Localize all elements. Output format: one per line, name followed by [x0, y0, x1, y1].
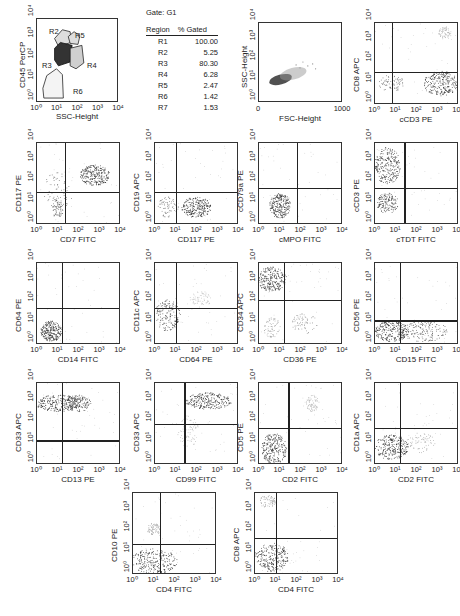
x-tick: 10²: [295, 345, 306, 354]
scatter-points: [37, 263, 119, 343]
scatter-panel-p11: [154, 382, 238, 464]
x-tick: 10⁰: [252, 225, 263, 234]
y-axis-label: CD11c APC: [132, 290, 141, 332]
y-tick: 10⁴: [122, 479, 131, 491]
x-tick: 10²: [295, 225, 306, 234]
x-axis-label: CD14 FITC: [28, 355, 128, 364]
y-tick: 10²: [122, 521, 131, 532]
y-tick: 10²: [364, 51, 373, 62]
y-axis-label: CD117 PE: [14, 175, 23, 212]
x-tick: 10⁰: [252, 465, 263, 474]
quadrant-line-vertical: [184, 383, 185, 463]
y-tick: 10¹: [244, 541, 253, 552]
quadrant-line-vertical: [392, 23, 393, 103]
x-axis-label: CD2 FITC: [366, 475, 460, 484]
pct-cell: 6.28: [176, 69, 218, 80]
region-cell: R7: [146, 102, 176, 113]
fsc-xlabel: FSC-Height: [250, 114, 350, 123]
x-tick: 10⁴: [336, 465, 348, 474]
scatter-points: [259, 383, 341, 463]
y-tick: 10⁰: [144, 211, 153, 222]
scatter-points: [375, 263, 457, 343]
y-tick: 10⁰: [364, 451, 373, 462]
quadrant-line-vertical: [62, 263, 63, 343]
x-tick: 10¹: [390, 345, 401, 354]
y-tick: 10²: [364, 171, 373, 182]
x-tick: 10⁰: [248, 575, 259, 584]
y-axis-ticks: 10⁰10¹10²10³10⁴: [248, 382, 260, 464]
x-tick: 10³: [432, 105, 443, 114]
pct-cell: 100.00: [176, 36, 218, 47]
scatter-points: [155, 263, 237, 343]
region-label-r6: R6: [73, 87, 83, 96]
y-tick: 10³: [144, 270, 153, 281]
quadrant-line-vertical: [400, 383, 401, 463]
table-row: R46.28: [146, 69, 218, 80]
x-tick: 10⁰: [368, 105, 379, 114]
y-axis-ticks: 10⁰10¹10²10³10⁴: [144, 382, 156, 464]
x-axis-label: CD2 FITC: [250, 475, 350, 484]
y-axis-label: cCD3 PE: [352, 179, 361, 212]
y-axis-label: CD8 APC: [352, 58, 361, 92]
y-tick: 10²: [248, 411, 257, 422]
x-tick: 10²: [73, 465, 84, 474]
y-tick: 10²: [26, 291, 35, 302]
x-tick: 10³: [94, 465, 105, 474]
scatter-points: [375, 383, 457, 463]
quadrant-line-vertical: [276, 493, 277, 573]
y-tick: 10⁰: [364, 331, 373, 342]
x-tick: 10²: [73, 225, 84, 234]
x-tick: 10⁰: [126, 575, 137, 584]
x-tick: 10²: [411, 345, 422, 354]
quadrant-line-vertical: [288, 383, 289, 463]
y-tick: 10⁰: [26, 331, 35, 342]
x-tick: 10¹: [390, 225, 401, 234]
x-tick: 10⁰: [148, 345, 159, 354]
quadrant-line-horizontal: [255, 538, 337, 539]
y-axis-ticks: 10⁰10¹10²10³10⁴: [248, 262, 260, 344]
fsc-xtick: 1000: [334, 104, 351, 113]
y-tick: 10¹: [248, 431, 257, 442]
scatter-points: [259, 143, 341, 223]
scatter-points: [37, 143, 119, 223]
scatter-points: [259, 263, 341, 343]
y-axis-label: CD34 APC: [236, 293, 245, 332]
pct-cell: 1.42: [176, 91, 218, 102]
y-axis-label: cCD79a PE: [236, 170, 245, 212]
y-tick: 10⁴: [248, 129, 257, 141]
y-tick: 10³: [364, 270, 373, 281]
y-axis-ticks: 10⁰10¹10²10³10⁴: [26, 18, 38, 102]
x-tick: 10²: [291, 575, 302, 584]
x-tick: 10⁰: [30, 465, 41, 474]
x-tick: 10⁴: [232, 225, 244, 234]
x-axis-label: CD15 FITC: [366, 355, 460, 364]
y-axis-ticks: 10⁰10¹10²10³10⁴: [248, 22, 260, 102]
quadrant-line-vertical: [160, 493, 161, 573]
region-label-r2: R2: [49, 27, 59, 36]
y-axis-label: CD8 APC: [232, 528, 241, 562]
quadrant-line-horizontal: [37, 192, 119, 193]
fsc-xtick: 0: [256, 104, 260, 113]
y-axis-ticks: 10⁰10¹10²10³10⁴: [364, 22, 376, 104]
gate-title: Gate: G1: [146, 8, 218, 17]
y-tick: 10¹: [122, 541, 131, 552]
y-tick: 10¹: [364, 191, 373, 202]
x-tick: 10²: [411, 225, 422, 234]
x-tick: 10³: [94, 345, 105, 354]
x-axis-label: CD64 PE: [146, 355, 246, 364]
y-axis-ticks: 10⁰10¹10²10³10⁴: [122, 492, 134, 574]
x-tick: 10⁴: [114, 345, 126, 354]
x-tick: 10¹: [390, 105, 401, 114]
quadrant-line-vertical: [176, 143, 177, 223]
y-tick: 10³: [248, 150, 257, 161]
y-tick: 10²: [364, 291, 373, 302]
x-axis-ticks: 10⁰10¹10²10³10⁴: [36, 103, 118, 115]
y-tick: 10²: [26, 411, 35, 422]
y-tick: 10²: [248, 171, 257, 182]
quadrant-line-horizontal: [375, 428, 457, 429]
x-tick: 10¹: [170, 225, 181, 234]
y-tick: 10¹: [26, 311, 35, 322]
y-tick: 10¹: [26, 191, 35, 202]
quadrant-line-vertical: [65, 143, 66, 223]
table-header: Region % Gated: [146, 25, 218, 36]
